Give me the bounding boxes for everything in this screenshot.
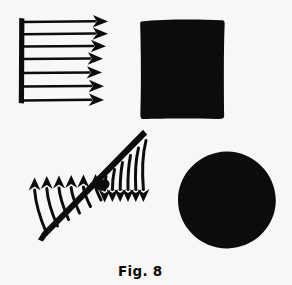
vertical-bar — [19, 18, 25, 104]
solid-circle-shape — [178, 151, 276, 248]
arrow-right-3 — [23, 40, 106, 52]
inclined-bar-curved-arrow-array — [29, 130, 150, 242]
circle-body — [178, 151, 276, 248]
arrow-right-4 — [23, 52, 103, 64]
square-body — [140, 20, 225, 119]
arrow-right-2 — [23, 27, 108, 39]
uniform-load-arrow-array — [19, 15, 108, 106]
figure-container: Fig. 8 — [0, 0, 292, 285]
curved-arrow-up-2 — [41, 176, 58, 226]
solid-square-shape — [140, 20, 225, 119]
figure-caption: Fig. 8 — [118, 263, 163, 279]
figure-canvas: Fig. 8 — [0, 0, 292, 285]
arrow-right-6 — [23, 80, 104, 92]
arrow-right-1 — [23, 15, 108, 27]
arrow-right-5 — [23, 66, 102, 78]
curved-arrow-down-3 — [114, 163, 126, 203]
arrow-right-7 — [23, 94, 104, 106]
